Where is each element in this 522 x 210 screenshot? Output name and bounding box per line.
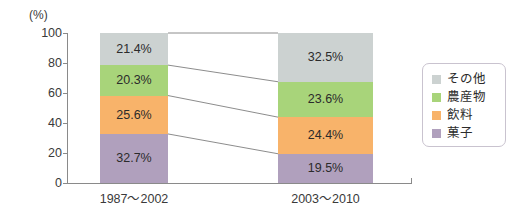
legend-color-swatch bbox=[432, 111, 441, 120]
y-axis-tick-text: 80 bbox=[22, 57, 62, 69]
bar-segment-value-label: 25.6% bbox=[116, 108, 151, 122]
bar-segment-value-label: 19.5% bbox=[308, 161, 343, 175]
legend-color-swatch bbox=[432, 129, 441, 138]
bar-segment[interactable]: 20.3% bbox=[100, 65, 168, 95]
y-axis-tick-mark bbox=[63, 93, 68, 94]
x-axis-category-label: 1987〜2002 bbox=[84, 188, 184, 207]
stacked-bar[interactable]: 21.4%20.3%25.6%32.7% bbox=[100, 33, 168, 183]
legend-item[interactable]: 飲料 bbox=[432, 107, 505, 124]
stacked-bar[interactable]: 32.5%23.6%24.4%19.5% bbox=[278, 33, 373, 183]
bar-segment[interactable]: 25.6% bbox=[100, 96, 168, 134]
bar-segment-value-label: 32.7% bbox=[116, 151, 151, 165]
legend-item[interactable]: その他 bbox=[432, 71, 505, 88]
y-axis-tick-text: 40 bbox=[22, 117, 62, 129]
bar-segment[interactable]: 24.4% bbox=[278, 117, 373, 154]
legend-item-label: 飲料 bbox=[447, 109, 473, 122]
legend-item-label: その他 bbox=[447, 73, 486, 86]
chart-legend: その他農産物飲料菓子 bbox=[422, 63, 506, 147]
legend-color-swatch bbox=[432, 93, 441, 102]
legend-color-swatch bbox=[432, 75, 441, 84]
y-axis-unit-label: (%) bbox=[29, 8, 48, 22]
bar-segment[interactable]: 23.6% bbox=[278, 82, 373, 117]
legend-item-label: 農産物 bbox=[447, 91, 486, 104]
bar-segment[interactable]: 32.5% bbox=[278, 33, 373, 82]
x-axis-line bbox=[67, 183, 412, 184]
stacked-bar-chart: (%) 020406080100 21.4%20.3%25.6%32.7%32.… bbox=[0, 0, 522, 210]
legend-item[interactable]: 農産物 bbox=[432, 89, 505, 106]
legend-item-label: 菓子 bbox=[447, 127, 473, 140]
x-axis-category-label: 2003〜2010 bbox=[276, 188, 376, 207]
bar-segment-value-label: 23.6% bbox=[308, 92, 343, 106]
connector-line bbox=[168, 65, 278, 82]
y-axis-line bbox=[67, 33, 68, 184]
bar-segment-value-label: 20.3% bbox=[116, 73, 151, 87]
connector-line bbox=[168, 96, 278, 118]
y-axis-tick-mark bbox=[63, 153, 68, 154]
bar-segment-value-label: 32.5% bbox=[308, 50, 343, 64]
bar-segment[interactable]: 19.5% bbox=[278, 154, 373, 183]
y-axis-tick-text: 20 bbox=[22, 147, 62, 159]
x-axis-end-tick bbox=[411, 178, 412, 184]
y-axis-tick-mark bbox=[63, 63, 68, 64]
y-axis-tick-mark bbox=[63, 123, 68, 124]
bar-segment-value-label: 21.4% bbox=[116, 42, 151, 56]
connector-line bbox=[168, 134, 278, 154]
y-axis-tick-mark bbox=[63, 33, 68, 34]
bar-segment-value-label: 24.4% bbox=[308, 128, 343, 142]
legend-item[interactable]: 菓子 bbox=[432, 125, 505, 142]
bar-segment[interactable]: 21.4% bbox=[100, 33, 168, 65]
bar-segment[interactable]: 32.7% bbox=[100, 134, 168, 183]
y-axis-tick-text: 60 bbox=[22, 87, 62, 99]
y-axis-tick-text: 100 bbox=[22, 27, 62, 39]
y-axis-tick-text: 0 bbox=[22, 177, 62, 189]
